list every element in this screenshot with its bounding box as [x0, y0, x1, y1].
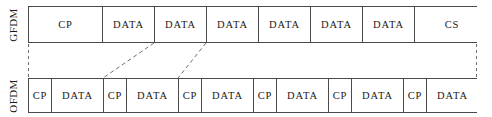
ofdm-cell-cp: CP	[329, 79, 352, 112]
gfdm-cell-cp: CP	[29, 7, 103, 42]
ofdm-cell-data: DATA	[352, 79, 404, 112]
cell-label: DATA	[62, 90, 93, 101]
row-label-ofdm: OFDM	[0, 78, 26, 113]
cell-label: DATA	[437, 90, 468, 101]
row-label-gfdm-text: GFDM	[7, 8, 19, 41]
ofdm-cell-data: DATA	[52, 79, 104, 112]
ofdm-cell-cp: CP	[104, 79, 127, 112]
ofdm-frame-row: CPDATACPDATACPDATACPDATACPDATACPDATA	[28, 78, 477, 113]
gfdm-cell-data: DATA	[103, 7, 155, 42]
ofdm-cell-data: DATA	[277, 79, 329, 112]
row-label-ofdm-text: OFDM	[7, 79, 19, 112]
cell-label: DATA	[113, 19, 144, 30]
cell-label: DATA	[269, 19, 300, 30]
cell-label: CP	[258, 90, 273, 101]
connector-diagonal-one	[103, 43, 154, 78]
cell-label: CP	[58, 19, 73, 30]
ofdm-cell-cp: CP	[254, 79, 277, 112]
cell-label: CP	[183, 90, 198, 101]
gfdm-cell-cs: CS	[415, 7, 489, 42]
cell-label: DATA	[287, 90, 318, 101]
ofdm-cell-data: DATA	[427, 79, 478, 112]
cell-label: CP	[408, 90, 423, 101]
cell-label: CP	[333, 90, 348, 101]
frame-structure-diagram: GFDM OFDM CPDATADATADATADATADATADATACS C…	[0, 0, 492, 117]
cell-label: DATA	[362, 90, 393, 101]
cell-label: DATA	[373, 19, 404, 30]
ofdm-cell-data: DATA	[127, 79, 179, 112]
cell-label: DATA	[217, 19, 248, 30]
gfdm-cell-data: DATA	[259, 7, 311, 42]
ofdm-cell-cp: CP	[29, 79, 52, 112]
ofdm-cell-cp: CP	[179, 79, 202, 112]
cell-label: DATA	[137, 90, 168, 101]
connector-diagonal-two	[178, 43, 206, 78]
cell-label: CP	[108, 90, 123, 101]
row-label-gfdm: GFDM	[0, 6, 26, 43]
cell-label: CP	[33, 90, 48, 101]
cell-label: DATA	[212, 90, 243, 101]
gfdm-cell-data: DATA	[363, 7, 415, 42]
gfdm-cell-data: DATA	[207, 7, 259, 42]
gfdm-frame-row: CPDATADATADATADATADATADATACS	[28, 6, 477, 43]
ofdm-cell-cp: CP	[404, 79, 427, 112]
cell-label: CS	[445, 19, 460, 30]
cell-label: DATA	[165, 19, 196, 30]
ofdm-cell-data: DATA	[202, 79, 254, 112]
gfdm-cell-data: DATA	[155, 7, 207, 42]
cell-label: DATA	[321, 19, 352, 30]
gfdm-cell-data: DATA	[311, 7, 363, 42]
